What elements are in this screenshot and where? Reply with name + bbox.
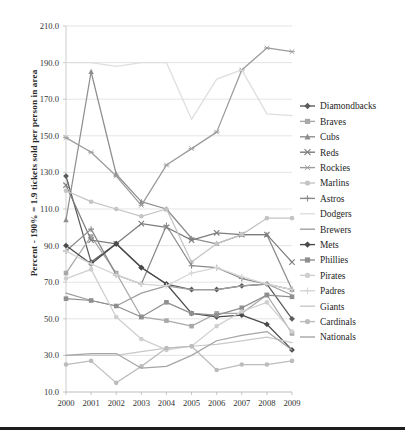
data-point-marker: [189, 311, 194, 316]
legend-item-nationals[interactable]: Nationals: [300, 332, 356, 342]
data-point-marker: [265, 293, 270, 298]
data-point-marker: [214, 368, 219, 373]
data-point-marker: [264, 46, 270, 51]
x-axis-tick-label: 2008: [258, 398, 275, 408]
data-point-marker: [89, 359, 94, 364]
series-marlins: [64, 188, 295, 264]
series-giants: [66, 337, 292, 355]
data-point-marker: [239, 309, 244, 314]
legend-item-braves[interactable]: Braves: [300, 117, 346, 127]
series-rockies: [63, 46, 295, 208]
data-point-marker: [289, 259, 294, 264]
data-point-marker: [89, 199, 94, 204]
legend-item-dodgers[interactable]: Dodgers: [300, 209, 352, 219]
data-point-marker: [239, 232, 244, 237]
series-line: [66, 244, 292, 350]
legend-item-diamondbacks[interactable]: Diamondbacks: [300, 101, 377, 111]
legend-item-marlins[interactable]: Marlins: [300, 178, 350, 188]
legend-item-padres[interactable]: Padres: [300, 286, 345, 296]
data-point-marker: [63, 173, 69, 179]
legend-label: Marlins: [320, 178, 350, 188]
y-axis-tick-label: 10.0: [44, 387, 59, 397]
data-point-marker: [304, 241, 310, 247]
data-point-marker: [265, 216, 270, 221]
data-point-marker: [189, 344, 194, 349]
legend-item-brewers[interactable]: Brewers: [300, 225, 352, 235]
data-point-marker: [88, 69, 93, 74]
legend-label: Dodgers: [320, 209, 352, 219]
data-point-marker: [88, 150, 94, 155]
series-line: [66, 191, 292, 262]
series-padres: [63, 248, 295, 292]
data-point-marker: [139, 214, 144, 219]
legend-item-astros[interactable]: Astros: [300, 194, 345, 204]
x-axis-tick-label: 2009: [283, 398, 300, 408]
data-point-marker: [189, 324, 194, 329]
data-point-marker: [304, 103, 310, 109]
legend-label: Cardinals: [320, 317, 356, 327]
legend-item-giants[interactable]: Giants: [300, 302, 345, 312]
x-axis-tick-label: 2000: [57, 398, 74, 408]
line-chart-plot: 10.030.050.070.090.0110.0130.0150.0170.0…: [0, 0, 405, 438]
legend-label: Giants: [320, 302, 345, 312]
series-line: [66, 48, 292, 205]
data-point-marker: [64, 362, 69, 367]
data-point-marker: [305, 319, 310, 324]
series-cardinals: [64, 344, 295, 385]
data-point-marker: [89, 298, 94, 303]
data-point-marker: [265, 362, 270, 367]
legend-label: Padres: [320, 286, 345, 296]
legend-label: Pirates: [320, 271, 346, 281]
data-point-marker: [139, 315, 144, 320]
bottom-divider-rule: [0, 427, 405, 430]
data-point-marker: [139, 337, 144, 342]
legend-item-cardinals[interactable]: Cardinals: [300, 317, 356, 327]
legend-item-cubs[interactable]: Cubs: [300, 132, 340, 142]
data-point-marker: [164, 207, 169, 212]
legend-item-rockies[interactable]: Rockies: [300, 163, 351, 173]
data-point-marker: [305, 180, 310, 185]
data-point-marker: [304, 288, 310, 294]
legend-label: Nationals: [320, 332, 356, 342]
x-axis-tick-label: 2007: [233, 398, 251, 408]
data-point-marker: [114, 304, 119, 309]
series-phillies: [64, 293, 295, 320]
data-point-marker: [189, 146, 195, 151]
legend-label: Phillies: [320, 255, 348, 265]
x-axis-tick-label: 2002: [108, 398, 125, 408]
legend-label: Braves: [320, 117, 346, 127]
legend-item-pirates[interactable]: Pirates: [300, 271, 346, 281]
legend-item-mets[interactable]: Mets: [300, 240, 339, 250]
legend-item-phillies[interactable]: Phillies: [300, 255, 348, 265]
data-point-marker: [189, 270, 195, 276]
legend-label: Cubs: [320, 132, 340, 142]
x-axis-tick-label: 2004: [158, 398, 176, 408]
data-point-marker: [64, 276, 69, 281]
y-axis-tick-label: 130.0: [40, 167, 59, 177]
series-line: [66, 63, 292, 120]
data-point-marker: [214, 324, 219, 329]
legend-label: Mets: [320, 240, 339, 250]
legend-label: Rockies: [320, 163, 351, 173]
y-axis-tick-label: 90.0: [44, 241, 59, 251]
data-point-marker: [164, 346, 169, 351]
chart-container: Percent - 190% = 1.9 tickets sold per pe…: [0, 0, 405, 438]
data-point-marker: [289, 49, 295, 54]
y-axis-tick-label: 170.0: [40, 94, 59, 104]
legend-item-reds[interactable]: Reds: [300, 148, 339, 158]
data-point-marker: [239, 362, 244, 367]
data-point-marker: [304, 165, 310, 170]
x-axis-tick-label: 2006: [208, 398, 226, 408]
y-axis-tick-label: 70.0: [44, 277, 59, 287]
data-point-marker: [64, 296, 69, 301]
series-line: [66, 337, 292, 355]
data-point-marker: [89, 267, 94, 272]
y-axis-tick-label: 150.0: [40, 131, 59, 141]
data-point-marker: [305, 119, 310, 124]
data-point-marker: [164, 163, 170, 168]
data-point-marker: [290, 216, 295, 221]
legend-label: Brewers: [320, 225, 352, 235]
data-point-marker: [290, 329, 295, 334]
data-point-marker: [189, 263, 195, 269]
data-point-marker: [214, 313, 219, 318]
